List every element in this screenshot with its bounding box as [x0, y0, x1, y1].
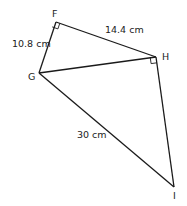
vertex-label-g: G — [28, 71, 35, 82]
edge-gh — [39, 57, 156, 73]
vertex-label-f: F — [52, 8, 57, 19]
edge-hi — [156, 57, 174, 187]
side-label-gi: 30 cm — [77, 129, 107, 140]
triangle-diagram: F H G I 10.8 cm 14.4 cm 30 cm — [0, 0, 187, 206]
side-label-fg: 10.8 cm — [12, 38, 51, 49]
vertex-label-h: H — [162, 51, 169, 62]
vertex-label-i: I — [173, 190, 176, 201]
side-label-fh: 14.4 cm — [105, 24, 144, 35]
